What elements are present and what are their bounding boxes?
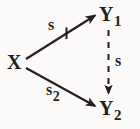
node-y2-base: Y bbox=[99, 97, 113, 119]
path-diagram-figure: X Y1 Y2 s s2 s bbox=[0, 0, 140, 129]
node-x-base: X bbox=[7, 51, 21, 73]
edge-x-to-y1 bbox=[26, 16, 95, 60]
edge-x-to-y2 bbox=[26, 68, 95, 106]
edge-label-s2-subscript: 2 bbox=[53, 89, 60, 104]
node-y2: Y2 bbox=[99, 98, 121, 118]
edge-label-s: s bbox=[115, 53, 121, 69]
node-x: X bbox=[7, 52, 21, 72]
edge-label-s-base: s bbox=[115, 52, 121, 69]
edge-label-s1: s bbox=[48, 17, 54, 33]
edge-label-s1-base: s bbox=[48, 16, 54, 33]
node-y1-subscript: 1 bbox=[114, 13, 122, 29]
node-y1-base: Y bbox=[99, 3, 113, 25]
edge-label-s2: s2 bbox=[46, 82, 59, 98]
edge-label-s2-base: s bbox=[46, 81, 52, 98]
node-y2-subscript: 2 bbox=[114, 107, 122, 123]
node-y1: Y1 bbox=[99, 4, 121, 24]
